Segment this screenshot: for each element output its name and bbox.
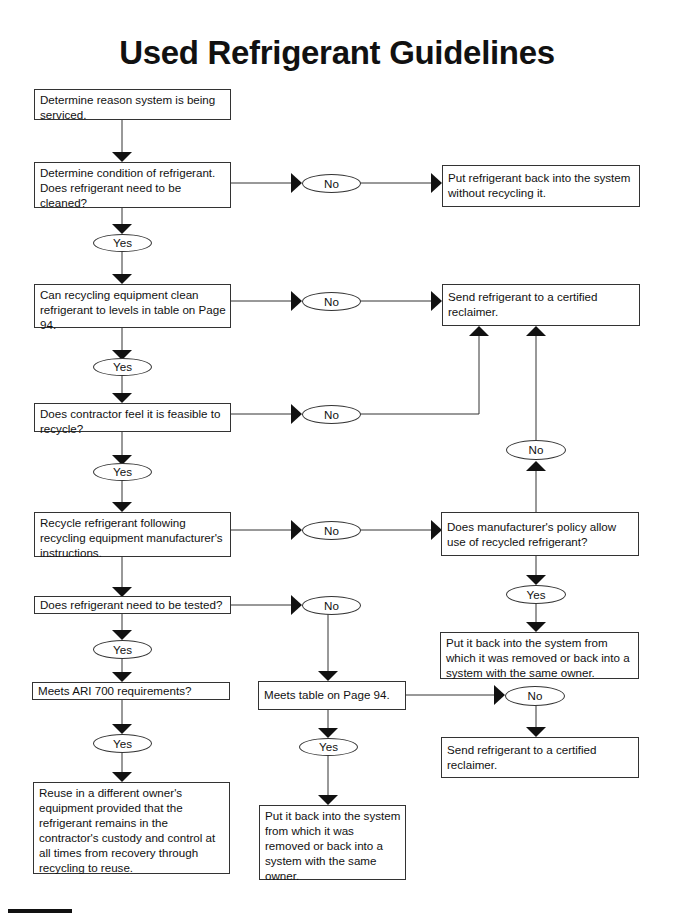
outcome-reclaimer-top: Send refrigerant to a certified reclaime…: [442, 284, 640, 326]
branch-yes-feasible: Yes: [93, 463, 152, 481]
outcome-put-back-no-recycle: Put refrigerant back into the system wit…: [442, 165, 640, 207]
outcome-reclaimer-bottom: Send refrigerant to a certified reclaime…: [441, 737, 639, 778]
decision-can-clean: Can recycling equipment clean refrigeran…: [34, 284, 231, 328]
decision-ari700: Meets ARI 700 requirements?: [32, 682, 230, 700]
branch-yes-ari700: Yes: [93, 734, 152, 753]
step-determine-reason: Determine reason system is being service…: [34, 89, 231, 120]
decision-manufacturer-policy: Does manufacturer's policy allow use of …: [441, 512, 639, 556]
decision-feasible: Does contractor feel it is feasible to r…: [34, 403, 231, 432]
branch-yes-meets-table: Yes: [299, 738, 358, 756]
step-recycle: Recycle refrigerant following recycling …: [34, 512, 231, 557]
outcome-reuse-different-owner: Reuse in a different owner's equipment p…: [33, 782, 230, 874]
branch-no-recycle: No: [302, 521, 361, 540]
branch-yes-clean: Yes: [93, 234, 152, 252]
branch-no-manufacturer: No: [506, 440, 566, 460]
decision-meets-table: Meets table on Page 94.: [258, 681, 406, 710]
branch-yes-manufacturer: Yes: [506, 585, 566, 604]
branch-no-meets-table: No: [505, 686, 565, 706]
footer-bar: [8, 909, 72, 913]
branch-no-clean: No: [302, 174, 361, 193]
branch-no-can-clean: No: [302, 292, 361, 311]
outcome-put-back-same-owner-right: Put it back into the system from which i…: [440, 632, 639, 679]
decision-needs-testing: Does refrigerant need to be tested?: [34, 596, 231, 614]
branch-yes-can-clean: Yes: [93, 358, 152, 376]
branch-no-tested: No: [302, 596, 361, 615]
branch-yes-tested: Yes: [93, 640, 152, 659]
outcome-put-back-same-owner-mid: Put it back into the system from which i…: [259, 805, 406, 880]
decision-needs-cleaning: Determine condition of refrigerant. Does…: [34, 162, 231, 208]
branch-no-feasible: No: [302, 405, 361, 424]
